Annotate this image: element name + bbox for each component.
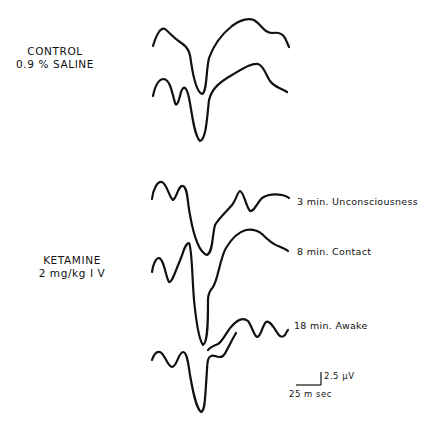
ketamine-trace-bottom xyxy=(152,333,236,412)
ketamine-trace-8min xyxy=(152,230,288,345)
scale-bar xyxy=(296,372,321,385)
control-label-line1: CONTROL xyxy=(12,45,98,58)
evoked-potential-figure: CONTROL 0.9 % SALINE KETAMINE 2 mg/kg I … xyxy=(0,0,442,428)
condition-label-18min: 18 min. Awake xyxy=(294,319,368,332)
control-group-label: CONTROL 0.9 % SALINE xyxy=(12,45,98,71)
ketamine-trace-18min xyxy=(208,319,288,350)
time-scale-label: 25 m sec xyxy=(289,389,332,399)
condition-label-8min: 8 min. Contact xyxy=(297,245,371,258)
ketamine-group-label: KETAMINE 2 mg/kg I V xyxy=(32,254,112,280)
condition-label-3min: 3 min. Unconsciousness xyxy=(297,195,418,208)
amplitude-scale-label: 2.5 µV xyxy=(324,371,354,381)
ketamine-label-line1: KETAMINE xyxy=(32,254,112,267)
control-label-line2: 0.9 % SALINE xyxy=(12,58,98,71)
ketamine-label-line2: 2 mg/kg I V xyxy=(32,267,112,280)
control-trace-2 xyxy=(153,64,287,141)
ketamine-trace-3min xyxy=(152,182,289,255)
